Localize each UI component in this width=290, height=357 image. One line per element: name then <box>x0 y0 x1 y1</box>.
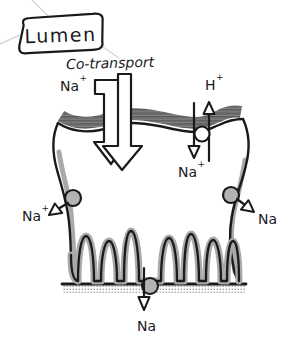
h-ion-label: H+ <box>205 78 223 92</box>
na-cotransport-label: Na+ <box>60 79 87 93</box>
h-efflux-arrowhead-icon <box>204 102 215 114</box>
cotransport-label: Co-transport <box>66 55 154 71</box>
right-pump-circle-icon <box>223 187 239 203</box>
na-bottom-label: Na <box>137 319 156 333</box>
na-left-label: Na+ <box>22 209 49 223</box>
left-na-arrow <box>49 203 68 215</box>
na-right-label: Na <box>258 212 277 226</box>
diagram-canvas: Lumen Co-transport Na+ H+ Na+ Na+ Na Na <box>0 0 290 357</box>
basolateral-folds-shading <box>71 231 239 281</box>
right-na-arrow <box>237 199 254 212</box>
na-antiport-label: Na+ <box>178 165 205 179</box>
na-influx-arrowhead-icon <box>189 146 200 158</box>
lumen-label: Lumen <box>18 20 104 51</box>
antiporter-circle-icon <box>195 127 210 142</box>
